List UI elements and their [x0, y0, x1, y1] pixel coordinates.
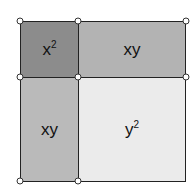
- vertex-dot: [75, 74, 82, 81]
- vertex-dot: [75, 18, 82, 25]
- vertex-dot: [17, 178, 24, 185]
- label-y-squared: y2: [125, 119, 139, 140]
- vertex-dot: [17, 74, 24, 81]
- cell-x-squared: x2: [20, 21, 79, 78]
- label-xy-top: xy: [124, 40, 141, 60]
- vertex-dot: [183, 18, 190, 25]
- label-x-squared: x2: [42, 39, 56, 60]
- vertex-dot: [17, 18, 24, 25]
- cell-xy-left: xy: [20, 77, 79, 182]
- vertex-dot: [183, 74, 190, 81]
- label-xy-left: xy: [41, 120, 58, 140]
- cell-xy-top: xy: [78, 21, 186, 78]
- cell-y-squared: y2: [78, 77, 186, 182]
- vertex-dot: [75, 178, 82, 185]
